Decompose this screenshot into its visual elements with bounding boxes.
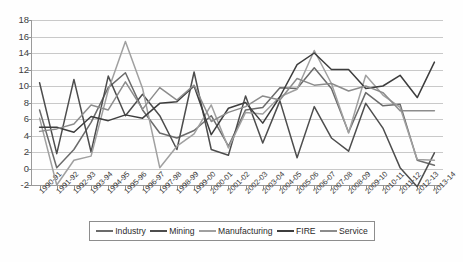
legend-swatch-icon <box>320 230 337 232</box>
y-tick-label: 0 <box>3 164 29 173</box>
legend-item-fire[interactable]: FIRE <box>277 227 316 236</box>
y-axis-labels: 181614121086420-2 <box>0 0 29 206</box>
legend-item-mining[interactable]: Mining <box>150 227 194 236</box>
line-chart: 181614121086420-2 1990-911991-921992-931… <box>0 0 463 262</box>
y-axis-line <box>31 20 32 186</box>
legend-label: Manufacturing <box>218 227 272 236</box>
y-tick-label: 14 <box>3 48 29 57</box>
gridline <box>31 119 443 120</box>
y-tick-label: -2 <box>3 180 29 189</box>
plot-area <box>31 20 443 185</box>
legend-swatch-icon <box>150 230 167 232</box>
gridline <box>31 37 443 38</box>
legend-item-service[interactable]: Service <box>320 227 368 236</box>
legend-item-industry[interactable]: Industry <box>96 227 146 236</box>
legend-label: Mining <box>169 227 194 236</box>
gridline <box>31 152 443 153</box>
y-tick-label: 6 <box>3 114 29 123</box>
gridline <box>31 86 443 87</box>
legend-item-manufacturing[interactable]: Manufacturing <box>199 227 272 236</box>
y-tick-label: 18 <box>3 15 29 24</box>
y-tick-label: 16 <box>3 32 29 41</box>
y-tick-label: 4 <box>3 131 29 140</box>
gridline <box>31 53 443 54</box>
legend-label: FIRE <box>296 227 316 236</box>
gridline <box>31 136 443 137</box>
legend-label: Service <box>339 227 368 236</box>
legend-label: Industry <box>115 227 146 236</box>
legend-swatch-icon <box>96 230 113 232</box>
gridline <box>31 103 443 104</box>
legend-swatch-icon <box>199 230 216 232</box>
y-tick-label: 12 <box>3 65 29 74</box>
y-tick-label: 8 <box>3 98 29 107</box>
gridline <box>31 20 443 21</box>
gridline <box>31 70 443 71</box>
legend-swatch-icon <box>277 230 294 232</box>
chart-legend: IndustryMiningManufacturingFIREService <box>89 221 375 241</box>
gridline <box>31 169 443 170</box>
y-tick-label: 2 <box>3 147 29 156</box>
y-tick-label: 10 <box>3 81 29 90</box>
